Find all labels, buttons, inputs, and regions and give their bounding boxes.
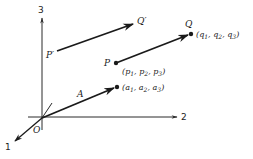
point-p-coords: (p1, p2, p3) xyxy=(122,67,165,77)
point-p-label: P xyxy=(103,58,111,68)
axis-3-label: 3 xyxy=(38,5,44,15)
axis-1-label: 1 xyxy=(5,142,11,152)
origin-label: O xyxy=(33,125,41,135)
point-q-prime-label: Q′ xyxy=(137,16,146,26)
point-q-coords: (q1, q2, q3) xyxy=(196,30,239,40)
point-a xyxy=(115,85,119,89)
vector-a-label: A xyxy=(76,89,84,99)
point-a-coords: (a1, a2, a3) xyxy=(122,83,164,93)
point-q-label: Q xyxy=(185,19,193,29)
vector-diagram: 3 2 1 O A (a1, a2, a3) P Q (p1, p2, p3) … xyxy=(0,0,253,159)
vector-p-prime-q-prime xyxy=(57,24,133,51)
point-p xyxy=(114,61,118,65)
axis-2-label: 2 xyxy=(181,112,187,122)
vector-pq xyxy=(116,35,188,63)
point-q xyxy=(189,32,193,36)
point-p-prime-label: P′ xyxy=(45,50,54,60)
